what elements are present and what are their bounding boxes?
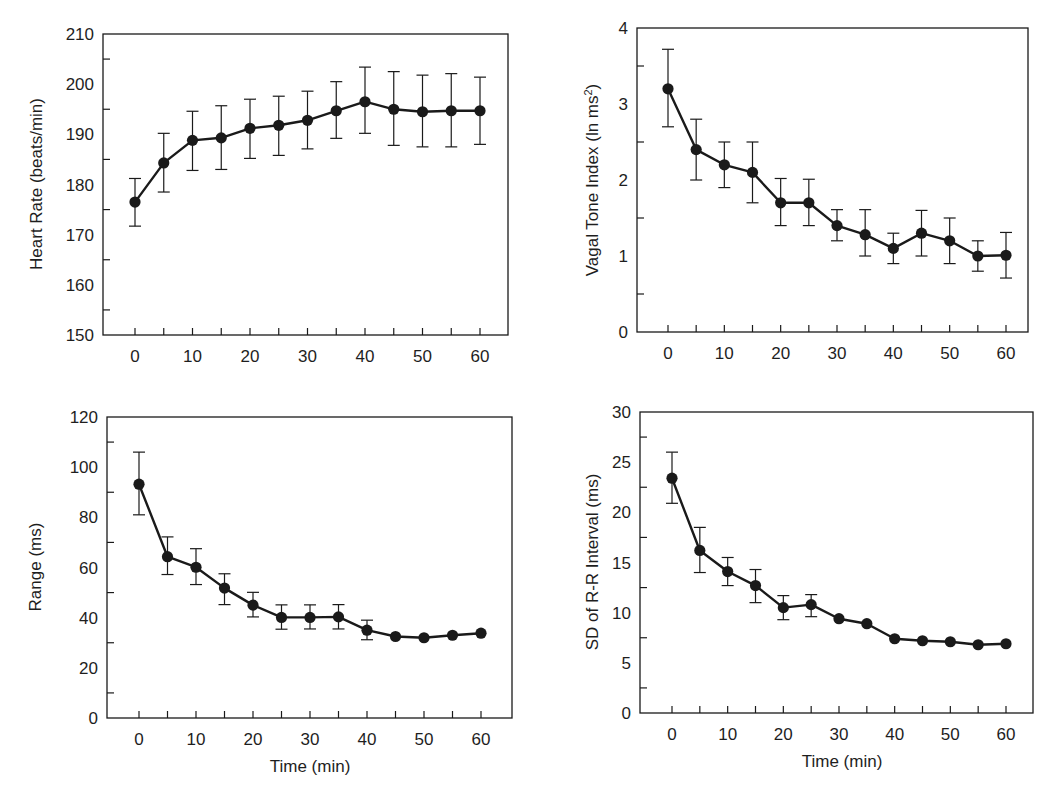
data-point-marker	[190, 562, 201, 573]
data-point-marker	[888, 243, 899, 254]
x-tick-label: 40	[356, 347, 375, 366]
data-point-marker	[775, 197, 786, 208]
data-point-marker	[719, 159, 730, 170]
x-tick-label: 30	[830, 725, 849, 744]
vagal-tone-y-axis-title-close: )	[583, 84, 602, 90]
data-point-marker	[219, 582, 230, 593]
x-tick-label: 0	[130, 347, 139, 366]
x-tick-label: 50	[940, 344, 959, 363]
data-point-marker	[158, 157, 169, 168]
data-point-marker	[361, 625, 372, 636]
x-tick-label: 10	[183, 347, 202, 366]
y-tick-label: 4	[619, 19, 628, 38]
data-point-marker	[276, 612, 287, 623]
x-tick-label: 0	[663, 344, 672, 363]
y-tick-label: 15	[612, 554, 631, 573]
x-tick-label: 60	[997, 344, 1016, 363]
x-tick-label: 10	[187, 730, 206, 749]
y-tick-label: 150	[66, 326, 94, 345]
plot-frame	[640, 412, 1033, 713]
y-tick-label: 5	[622, 654, 631, 673]
data-point-marker	[302, 115, 313, 126]
x-tick-label: 30	[301, 730, 320, 749]
y-tick-label: 30	[612, 403, 631, 422]
data-point-marker	[750, 580, 761, 591]
y-tick-label: 2	[619, 171, 628, 190]
data-point-marker	[973, 639, 984, 650]
x-tick-label: 50	[413, 347, 432, 366]
x-tick-label: 40	[885, 725, 904, 744]
y-tick-label: 210	[66, 25, 94, 44]
x-tick-label: 40	[884, 344, 903, 363]
data-point-marker	[475, 628, 486, 639]
data-point-marker	[662, 83, 673, 94]
x-tick-label: 30	[298, 347, 317, 366]
heart-rate-y-axis-title: Heart Rate (beats/min)	[27, 98, 46, 270]
x-tick-label: 50	[941, 725, 960, 744]
sd-rr-x-axis-title: Time (min)	[802, 752, 883, 771]
data-point-marker	[247, 600, 258, 611]
x-tick-label: 0	[134, 730, 143, 749]
data-point-marker	[806, 599, 817, 610]
vagal-tone-chart: 012340102030405060	[619, 19, 1028, 363]
x-tick-label: 0	[667, 725, 676, 744]
data-point-marker	[446, 105, 457, 116]
data-point-marker	[273, 120, 284, 131]
data-point-marker	[129, 196, 140, 207]
y-tick-label: 10	[612, 604, 631, 623]
data-point-marker	[861, 618, 872, 629]
data-point-marker	[1000, 250, 1011, 261]
data-point-marker	[162, 551, 173, 562]
data-point-marker	[359, 96, 370, 107]
x-tick-label: 40	[358, 730, 377, 749]
data-point-marker	[390, 631, 401, 642]
data-point-marker	[722, 566, 733, 577]
range-x-axis-title: Time (min)	[270, 757, 351, 776]
y-tick-label: 80	[79, 508, 98, 527]
y-tick-label: 0	[89, 709, 98, 728]
y-tick-label: 60	[79, 559, 98, 578]
x-tick-label: 20	[774, 725, 793, 744]
figure-canvas: 1501601701801902002100102030405060 01234…	[0, 0, 1059, 792]
vagal-tone-y-axis-title-main: Vagal Tone Index (ln ms	[583, 95, 602, 276]
data-point-marker	[945, 636, 956, 647]
data-point-marker	[1000, 638, 1011, 649]
data-point-marker	[333, 611, 344, 622]
y-tick-label: 190	[66, 125, 94, 144]
x-tick-label: 10	[715, 344, 734, 363]
y-tick-label: 170	[66, 226, 94, 245]
y-tick-label: 3	[619, 95, 628, 114]
data-point-marker	[388, 104, 399, 115]
data-point-marker	[916, 228, 927, 239]
sd-rr-interval-chart: 0510152025300102030405060	[612, 403, 1033, 744]
y-tick-label: 20	[79, 659, 98, 678]
range-y-axis-title: Range (ms)	[26, 523, 45, 612]
y-tick-label: 40	[79, 609, 98, 628]
x-tick-label: 30	[828, 344, 847, 363]
data-point-marker	[418, 632, 429, 643]
y-tick-label: 120	[70, 408, 98, 427]
x-tick-label: 20	[244, 730, 263, 749]
y-tick-label: 1	[619, 247, 628, 266]
data-point-marker	[972, 250, 983, 261]
x-tick-label: 60	[471, 347, 490, 366]
data-point-marker	[747, 167, 758, 178]
data-point-marker	[917, 635, 928, 646]
heart-rate-chart: 1501601701801902002100102030405060	[66, 25, 508, 366]
y-tick-label: 0	[622, 704, 631, 723]
y-tick-label: 100	[70, 458, 98, 477]
data-point-marker	[417, 106, 428, 117]
y-tick-label: 200	[66, 75, 94, 94]
y-tick-label: 160	[66, 276, 94, 295]
y-tick-label: 25	[612, 453, 631, 472]
data-point-marker	[944, 235, 955, 246]
data-point-marker	[691, 144, 702, 155]
data-point-marker	[447, 630, 458, 641]
data-point-marker	[778, 602, 789, 613]
vagal-tone-y-axis-title: Vagal Tone Index (ln ms2)	[582, 84, 602, 277]
data-point-marker	[244, 123, 255, 134]
data-point-marker	[803, 197, 814, 208]
data-point-marker	[889, 633, 900, 644]
x-tick-label: 60	[997, 725, 1016, 744]
range-chart: 0204060801001200102030405060	[70, 408, 512, 749]
